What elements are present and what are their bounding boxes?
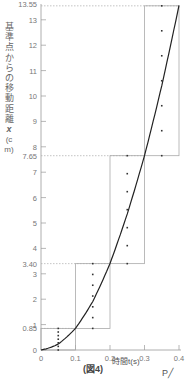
x-t-chart: 01234567891011121300.10.20.30.40.853.407… <box>0 0 186 384</box>
corner-mark: P╱ <box>162 368 173 378</box>
y-axis-label: 基準点からの移動距離 x (cm) <box>3 22 15 156</box>
data-dot <box>161 130 163 132</box>
y-axis-variable: x <box>6 124 11 134</box>
reference-label: 7.65 <box>22 152 37 161</box>
data-dot <box>161 30 163 32</box>
data-dot <box>161 105 163 107</box>
x-tick-label: 0.4 <box>174 354 184 363</box>
data-dot <box>57 338 59 340</box>
reference-label: 13.55 <box>18 0 37 9</box>
data-dot <box>57 349 59 351</box>
y-axis-label-text: 基準点からの移動距離 <box>5 22 14 124</box>
reference-label: 3.40 <box>22 260 37 269</box>
y-tick-label: 8 <box>33 143 37 152</box>
data-dot <box>161 55 163 57</box>
x-tick-label: 0 <box>39 354 43 363</box>
data-dot <box>57 328 59 330</box>
data-dot <box>92 306 94 308</box>
data-dot <box>161 155 163 157</box>
data-dot <box>126 191 128 193</box>
y-tick-label: 11 <box>29 67 37 76</box>
data-dot <box>92 263 94 265</box>
data-dot <box>57 331 59 333</box>
x-tick-label: 0.3 <box>139 354 149 363</box>
data-dot <box>161 5 163 7</box>
data-dot <box>92 317 94 319</box>
data-dot <box>126 227 128 229</box>
data-dot <box>92 328 94 330</box>
y-tick-label: 4 <box>33 244 37 253</box>
y-tick-label: 2 <box>33 295 37 304</box>
figure-caption: (図4) <box>83 362 103 375</box>
x-tick-label: 0.1 <box>70 354 80 363</box>
data-dot <box>92 274 94 276</box>
data-dot <box>57 346 59 348</box>
y-tick-label: 5 <box>33 219 37 228</box>
y-tick-label: 7 <box>33 168 37 177</box>
reference-label: 0.85 <box>22 324 37 333</box>
y-tick-label: 9 <box>33 117 37 126</box>
data-dot <box>126 245 128 247</box>
y-tick-label: 10 <box>29 92 37 101</box>
y-tick-label: 13 <box>29 16 37 25</box>
corner-slash-icon: ╱ <box>168 368 173 378</box>
y-tick-label: 0 <box>33 346 37 355</box>
data-dot <box>126 263 128 265</box>
y-axis-unit: (cm) <box>3 135 15 155</box>
y-tick-label: 6 <box>33 194 37 203</box>
data-dot <box>92 284 94 286</box>
data-dot <box>126 155 128 157</box>
data-dot <box>126 173 128 175</box>
y-tick-label: 12 <box>29 41 37 50</box>
y-tick-label: 3 <box>33 270 37 279</box>
data-dot <box>57 335 59 337</box>
x-axis-label: 時間t(s) <box>112 355 140 366</box>
data-dot <box>92 295 94 297</box>
